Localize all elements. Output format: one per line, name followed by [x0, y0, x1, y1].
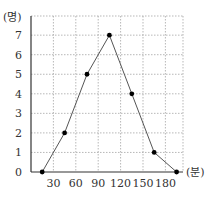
y-tick-label: 6	[15, 49, 22, 62]
y-tick-label: 1	[15, 146, 22, 159]
y-tick-label: 0	[15, 166, 22, 179]
y-tick-label: 5	[15, 68, 22, 81]
data-point-marker	[85, 72, 90, 77]
y-tick-label: 7	[15, 29, 22, 42]
data-point-marker	[152, 150, 157, 155]
data-line	[42, 35, 176, 172]
x-tick-label: 120	[110, 177, 131, 190]
data-point-marker	[174, 170, 179, 175]
x-tick-label: 180	[155, 177, 176, 190]
data-point-marker	[62, 131, 67, 136]
data-markers	[40, 33, 179, 175]
y-tick-label: 3	[15, 107, 22, 120]
x-tick-label: 90	[91, 177, 105, 190]
x-tick-label: 150	[133, 177, 154, 190]
y-tick-label: 2	[15, 127, 22, 140]
y-axis-label: (명)	[3, 11, 22, 24]
data-point-marker	[129, 91, 134, 96]
x-axis-ticks: 306090120150180	[46, 177, 176, 190]
data-point-marker	[40, 170, 45, 175]
x-tick-label: 30	[46, 177, 60, 190]
x-axis-label: (분)	[186, 166, 205, 179]
x-tick-label: 60	[69, 177, 83, 190]
data-point-marker	[107, 33, 112, 38]
frequency-polygon-chart: 01234567 306090120150180 (명) (분)	[0, 0, 206, 199]
y-tick-label: 4	[15, 88, 22, 101]
y-axis-ticks: 01234567	[15, 29, 22, 179]
